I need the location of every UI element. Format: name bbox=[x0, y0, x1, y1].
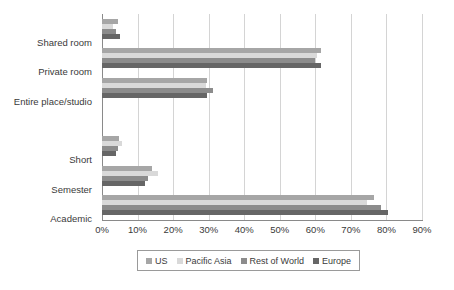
tick-label: 40% bbox=[235, 224, 254, 236]
gridline bbox=[422, 14, 423, 220]
gridline bbox=[209, 14, 210, 220]
value-axis-tick-labels: 0%10%20%30%40%50%60%70%80%90% bbox=[102, 224, 423, 238]
bar-group bbox=[102, 19, 422, 39]
tick-label: 80% bbox=[377, 224, 396, 236]
legend-swatch-icon bbox=[146, 258, 152, 264]
gridline bbox=[351, 14, 352, 220]
chart-legend: USPacific AsiaRest of WorldEurope bbox=[137, 250, 360, 271]
legend-swatch-icon bbox=[241, 258, 247, 264]
bar-group bbox=[102, 48, 422, 68]
bar-chart: Shared roomPrivate roomEntire place/stud… bbox=[0, 0, 454, 290]
gridlines bbox=[102, 14, 422, 220]
category-label: Shared room bbox=[37, 38, 92, 48]
bar-group bbox=[102, 195, 422, 215]
gridline bbox=[173, 14, 174, 220]
legend-label: Europe bbox=[322, 256, 351, 266]
bar bbox=[102, 151, 116, 156]
legend-swatch-icon bbox=[313, 258, 319, 264]
gridline bbox=[315, 14, 316, 220]
legend-item[interactable]: US bbox=[146, 256, 168, 266]
category-label: Private room bbox=[38, 67, 92, 77]
tick-label: 20% bbox=[164, 224, 183, 236]
plot-area bbox=[102, 14, 422, 220]
tick-label: 30% bbox=[199, 224, 218, 236]
category-label: Semester bbox=[51, 185, 92, 195]
legend-label: Rest of World bbox=[250, 256, 304, 266]
gridline bbox=[280, 14, 281, 220]
legend-item[interactable]: Rest of World bbox=[241, 256, 304, 266]
tick-label: 60% bbox=[306, 224, 325, 236]
tick-label: 70% bbox=[341, 224, 360, 236]
bar bbox=[102, 181, 145, 186]
bar bbox=[102, 34, 120, 39]
legend-label: Pacific Asia bbox=[186, 256, 232, 266]
bar-group bbox=[102, 136, 422, 156]
gridline bbox=[386, 14, 387, 220]
value-axis-line bbox=[102, 14, 103, 220]
category-axis-line bbox=[102, 220, 423, 221]
bar-group bbox=[102, 78, 422, 98]
gridline bbox=[244, 14, 245, 220]
legend-label: US bbox=[155, 256, 168, 266]
legend-item[interactable]: Europe bbox=[313, 256, 351, 266]
bar bbox=[102, 63, 321, 68]
legend-swatch-icon bbox=[177, 258, 183, 264]
legend-item[interactable]: Pacific Asia bbox=[177, 256, 232, 266]
bar bbox=[102, 93, 207, 98]
gridline bbox=[138, 14, 139, 220]
tick-label: 50% bbox=[270, 224, 289, 236]
category-label: Short bbox=[69, 155, 92, 165]
category-label: Entire place/studio bbox=[14, 97, 92, 107]
bar-group bbox=[102, 166, 422, 186]
tick-label: 10% bbox=[128, 224, 147, 236]
tick-label: 0% bbox=[95, 224, 109, 236]
category-axis-labels: Shared roomPrivate roomEntire place/stud… bbox=[0, 14, 98, 220]
bar bbox=[102, 210, 388, 215]
tick-label: 90% bbox=[412, 224, 431, 236]
category-label: Academic bbox=[50, 214, 92, 224]
